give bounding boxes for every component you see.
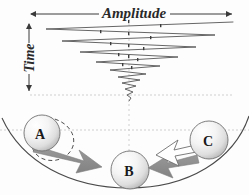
- time-axis-label: Time: [22, 43, 37, 72]
- ball-c-group: C: [190, 121, 228, 159]
- ball-c-label: C: [203, 134, 213, 149]
- diagram-canvas: Amplitude Time: [0, 0, 249, 195]
- oscillation-diagram: Amplitude Time: [0, 0, 249, 195]
- damped-waveform: [46, 20, 233, 101]
- time-axis: Time: [22, 24, 37, 91]
- amplitude-axis: Amplitude: [31, 5, 232, 21]
- waveform-polyline: [46, 22, 233, 101]
- ball-b-label: B: [124, 164, 133, 179]
- ball-a-label: A: [35, 127, 46, 142]
- ball-b-group: B: [111, 151, 149, 189]
- amplitude-axis-label: Amplitude: [101, 5, 167, 21]
- ball-a-group: A: [24, 115, 102, 173]
